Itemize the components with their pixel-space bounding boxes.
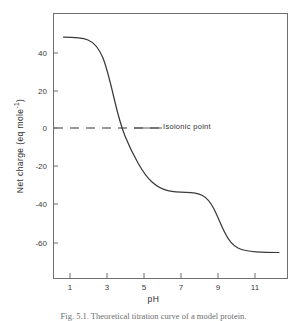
y-axis-title-exponent: -1 [13,102,20,109]
y-axis-tick-labels: 40 20 0 -20 -40 -60 [0,0,53,320]
y-tick-label: -40 [35,200,47,209]
y-tick-label: 20 [38,87,47,96]
y-tick-label: -60 [35,239,47,248]
y-tick-label: 40 [38,49,47,58]
x-axis-title: pH [0,294,307,304]
y-axis-title-text: Net charge (eq mole [15,109,25,194]
x-tick-label: 11 [251,283,259,292]
figure-caption: Fig. 5.1. Theoretical titration curve of… [0,311,307,321]
y-tick-label: 0 [43,124,47,133]
x-tick-label: 1 [68,283,72,292]
x-tick-label: 5 [142,283,146,292]
x-tick-label: 3 [105,283,109,292]
x-tick-label: 9 [216,283,220,292]
x-tick-label: 7 [179,283,183,292]
y-tick-label: -20 [35,162,47,171]
isoionic-point-label: Isoionic point [163,122,211,131]
plot-frame [53,13,288,279]
y-axis-title-paren: ) [15,99,25,102]
y-axis-title: Net charge (eq mole-1) [13,66,25,226]
